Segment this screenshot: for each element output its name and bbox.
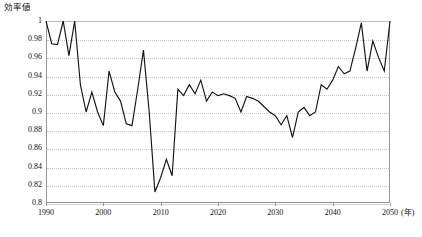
- x-tick-mark: [161, 203, 162, 206]
- x-tick-mark: [275, 203, 276, 206]
- x-tick-mark: [46, 203, 47, 206]
- x-axis-unit-label: (年): [401, 208, 414, 217]
- x-tick-label: 2020: [210, 208, 226, 217]
- x-tick-label: 2050: [382, 208, 398, 217]
- x-tick-mark: [390, 203, 391, 206]
- x-tick-mark: [333, 203, 334, 206]
- x-tick-label: 2030: [267, 208, 283, 217]
- efficiency-line-chart: 効率値 10.980.960.940.920.90.880.860.840.82…: [0, 0, 422, 237]
- x-axis-tick-labels: 1990200020102020203020402050(年): [0, 0, 422, 237]
- x-tick-label: 1990: [38, 208, 54, 217]
- x-tick-label: 2000: [95, 208, 111, 217]
- x-tick-label: 2010: [153, 208, 169, 217]
- x-tick-mark: [103, 203, 104, 206]
- x-tick-label: 2040: [325, 208, 341, 217]
- x-tick-mark: [218, 203, 219, 206]
